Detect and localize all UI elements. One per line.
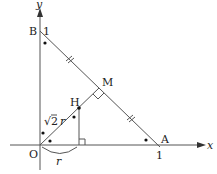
x-tick-1: 1 <box>156 149 163 162</box>
point-B-label: B <box>29 25 37 38</box>
OH-length-label: √ 2 r <box>44 115 66 128</box>
right-angle-foot-icon <box>79 139 85 145</box>
point-M-label: M <box>102 76 113 89</box>
x-axis-label: x <box>207 139 214 152</box>
coordinate-diagram: y x B 1 M H A 1 O r √ 2 r <box>0 0 217 174</box>
point-A-label: A <box>160 133 170 146</box>
y-axis-label: y <box>35 0 43 11</box>
y-tick-1: 1 <box>43 25 50 38</box>
arc-r <box>42 147 77 154</box>
x-axis-arrow-icon <box>197 142 206 148</box>
arc-r-label: r <box>56 155 62 168</box>
segment-AB <box>40 31 160 147</box>
point-H-label: H <box>70 96 80 109</box>
r-symbol: r <box>60 115 66 128</box>
sqrt-two: 2 <box>51 115 58 128</box>
right-angle-M-icon <box>93 93 104 99</box>
origin-label: O <box>29 148 38 161</box>
